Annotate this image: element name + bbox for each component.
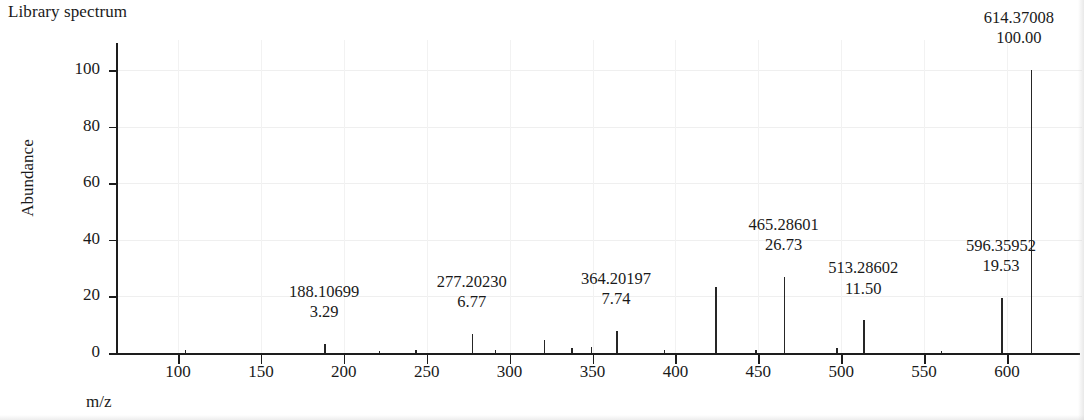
- y-axis-tick: [109, 296, 117, 298]
- peak-annotation: 614.37008100.00: [944, 8, 1084, 48]
- peak-mz-value: 614.37008: [944, 8, 1084, 28]
- peak-abundance-value: 100.00: [944, 28, 1084, 48]
- vertical-gridline: [1007, 40, 1008, 353]
- spectrum-peak: [784, 277, 786, 353]
- x-axis-label: m/z: [86, 392, 112, 412]
- peak-mz-value: 277.20230: [397, 272, 547, 292]
- x-tick-label: 400: [640, 362, 710, 382]
- spectrum-peak: [1031, 70, 1033, 353]
- y-tick-label: 40: [40, 229, 100, 249]
- y-tick-label: 80: [40, 116, 100, 136]
- spectrum-peak: [836, 348, 838, 353]
- spectrum-peak: [941, 351, 943, 353]
- y-axis-tick: [109, 240, 117, 242]
- x-tick-label: 300: [475, 362, 545, 382]
- y-tick-label: 0: [40, 342, 100, 362]
- mass-spectrum-plot: Library spectrum Abundance m/z 020406080…: [0, 0, 1084, 420]
- x-tick-label: 350: [558, 362, 628, 382]
- horizontal-gridline: [118, 70, 1082, 71]
- y-axis-label: Abundance: [18, 98, 38, 258]
- spectrum-peak: [591, 347, 593, 353]
- x-tick-label: 200: [309, 362, 379, 382]
- y-tick-label: 100: [40, 59, 100, 79]
- spectrum-peak: [616, 331, 618, 353]
- spectrum-peak: [664, 350, 666, 353]
- spectrum-peak: [324, 344, 326, 353]
- page-title: Library spectrum: [8, 2, 127, 22]
- x-tick-label: 500: [806, 362, 876, 382]
- peak-abundance-value: 11.50: [788, 279, 938, 299]
- spectrum-peak: [544, 340, 546, 353]
- spectrum-peak: [755, 350, 757, 353]
- spectrum-peak: [495, 350, 497, 353]
- peak-annotation: 465.2860126.73: [709, 215, 859, 255]
- peak-mz-value: 513.28602: [788, 258, 938, 278]
- peak-annotation: 188.106993.29: [249, 282, 399, 322]
- x-tick-label: 450: [723, 362, 793, 382]
- y-axis-tick: [109, 127, 117, 129]
- spectrum-peak: [472, 334, 474, 353]
- scan-bottom-shadow: [0, 415, 1084, 420]
- vertical-gridline: [758, 40, 759, 353]
- peak-mz-value: 364.20197: [541, 269, 691, 289]
- x-tick-label: 600: [972, 362, 1042, 382]
- y-tick-label: 20: [40, 285, 100, 305]
- peak-abundance-value: 7.74: [541, 289, 691, 309]
- x-tick-label: 250: [392, 362, 462, 382]
- peak-abundance-value: 3.29: [249, 302, 399, 322]
- y-axis-tick: [109, 183, 117, 185]
- peak-abundance-value: 6.77: [397, 292, 547, 312]
- peak-mz-value: 596.35952: [926, 236, 1076, 256]
- horizontal-gridline: [118, 183, 1082, 184]
- y-tick-label: 60: [40, 172, 100, 192]
- vertical-gridline: [841, 40, 842, 353]
- spectrum-peak: [1001, 298, 1003, 353]
- x-tick-label: 100: [143, 362, 213, 382]
- scan-edge-shadow: [1078, 0, 1084, 420]
- peak-annotation: 364.201977.74: [541, 269, 691, 309]
- peak-annotation: 513.2860211.50: [788, 258, 938, 298]
- y-axis-tick: [109, 70, 117, 72]
- vertical-gridline: [178, 40, 179, 353]
- x-tick-label: 150: [226, 362, 296, 382]
- peak-mz-value: 188.10699: [249, 282, 399, 302]
- vertical-gridline: [924, 40, 925, 353]
- spectrum-peak: [185, 350, 187, 353]
- horizontal-gridline: [118, 127, 1082, 128]
- peak-mz-value: 465.28601: [709, 215, 859, 235]
- spectrum-peak: [863, 320, 865, 353]
- peak-annotation: 596.3595219.53: [926, 236, 1076, 276]
- peak-abundance-value: 19.53: [926, 256, 1076, 276]
- y-axis-line: [116, 43, 118, 354]
- x-tick-label: 550: [889, 362, 959, 382]
- spectrum-peak: [379, 351, 381, 353]
- y-axis-tick: [109, 353, 117, 355]
- peak-abundance-value: 26.73: [709, 235, 859, 255]
- peak-annotation: 277.202306.77: [397, 272, 547, 312]
- spectrum-peak: [715, 287, 717, 353]
- spectrum-peak: [571, 348, 573, 353]
- spectrum-peak: [415, 350, 417, 353]
